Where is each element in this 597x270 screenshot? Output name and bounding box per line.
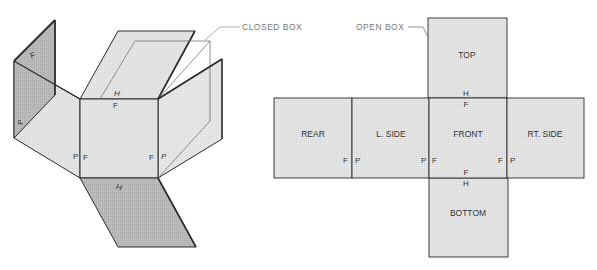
closed-box-label: CLOSED BOX	[242, 22, 302, 32]
iso-rear-p-mark: P	[16, 120, 25, 125]
net-top-label: TOP	[458, 50, 476, 60]
net-bottom-h: H	[463, 179, 469, 188]
net-front-label: FRONT	[453, 129, 482, 139]
closed-box-leader	[205, 27, 240, 40]
net-rear-f: F	[343, 156, 348, 165]
open-box-leader	[408, 27, 428, 37]
iso-front-panel	[80, 99, 158, 178]
net-lside-p-right: P	[421, 156, 426, 165]
iso-bottom-panel	[80, 178, 196, 247]
net-rside-p: P	[510, 156, 515, 165]
net-rear-label: REAR	[301, 129, 325, 139]
glass-box-diagram: F P H F P F F P H CLOSED BOX TOP REAR L.…	[0, 0, 597, 270]
iso-front-p-right: P	[161, 152, 167, 161]
open-box-label: OPEN BOX	[356, 22, 404, 32]
net-front-f-left: F	[432, 156, 437, 165]
net-top-h: H	[463, 89, 469, 98]
iso-top-h-mark: H	[114, 89, 120, 98]
net-top-f: F	[464, 100, 469, 109]
net-left-side-label: L. SIDE	[376, 129, 406, 139]
net-bottom-f: F	[464, 168, 469, 177]
iso-front-f-right: F	[149, 153, 154, 162]
iso-front-p-left: P	[73, 152, 78, 161]
net-front-f-right: F	[498, 156, 503, 165]
net-lside-p-left: P	[355, 156, 360, 165]
isometric-unfolding-box: F P H F P F F P H CLOSED BOX	[14, 20, 302, 247]
iso-front-f-left: F	[83, 153, 88, 162]
open-box-net: TOP REAR L. SIDE FRONT RT. SIDE BOTTOM H…	[274, 18, 584, 257]
net-bottom-label: BOTTOM	[450, 208, 486, 218]
iso-top-f-mark: F	[113, 101, 118, 110]
net-right-side-label: RT. SIDE	[528, 129, 563, 139]
